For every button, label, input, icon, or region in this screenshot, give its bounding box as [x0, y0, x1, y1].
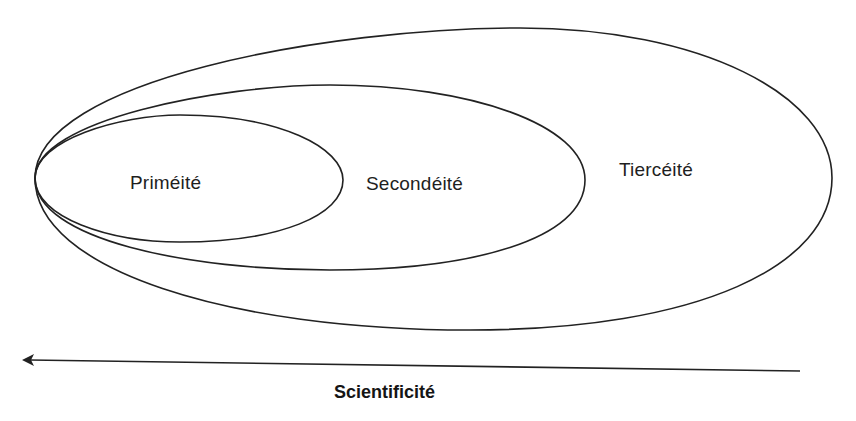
- label-primeite: Priméité: [130, 172, 201, 194]
- scientificite-axis-line: [30, 360, 800, 371]
- ellipse-secondeite: [35, 85, 585, 270]
- label-tierceite: Tiercéité: [619, 159, 693, 181]
- axis-label-scientificite: Scientificité: [334, 382, 435, 403]
- nested-ellipses-diagram: [0, 0, 856, 421]
- label-secondeite: Secondéité: [366, 173, 463, 195]
